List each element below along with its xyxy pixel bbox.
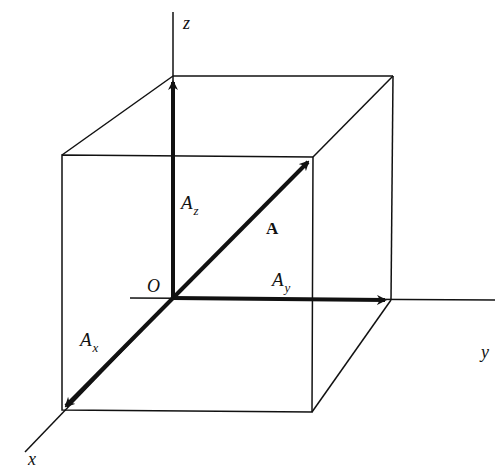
origin-label: O [147, 277, 160, 295]
vector-ay-arrow [173, 298, 385, 300]
vector-ax-arrow [66, 298, 173, 406]
vector-a-label: A [266, 220, 278, 237]
z-axis-label: z [183, 14, 190, 32]
vector-az-label: Az [181, 193, 199, 212]
axes [25, 12, 495, 452]
x-axis-label: x [28, 450, 36, 468]
vector-diagram [0, 0, 501, 475]
vector-ax-label: Ax [80, 330, 98, 349]
vector-ay-label: Ay [272, 270, 290, 289]
vector-arrows [66, 82, 385, 406]
y-axis-label: y [481, 343, 489, 361]
